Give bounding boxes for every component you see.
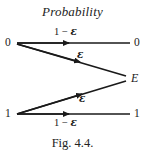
figure-container: Probability 0 1 0 1 E 1 − ε — [0, 0, 145, 155]
epsilon-symbol: ε — [70, 25, 76, 37]
epsilon-symbol: ε — [70, 116, 76, 128]
edge-label-one-to-erasure: ε — [79, 93, 85, 105]
node-input-zero: 0 — [5, 37, 11, 49]
epsilon-symbol: ε — [77, 48, 83, 60]
edge-label-one-to-one: 1 − ε — [54, 117, 77, 129]
edge-zero-to-erasure — [17, 44, 126, 76]
figure-caption: Fig. 4.4. — [0, 136, 145, 151]
edge-label-zero-to-zero: 1 − ε — [54, 26, 77, 38]
channel-diagram-graphic — [0, 0, 145, 155]
edge-label-one-to-one-prefix: 1 − — [54, 117, 70, 128]
node-output-zero: 0 — [134, 37, 140, 49]
epsilon-symbol: ε — [79, 92, 85, 104]
node-input-one: 1 — [5, 108, 11, 120]
edge-label-zero-to-erasure: ε — [77, 49, 83, 61]
edge-label-zero-to-zero-prefix: 1 − — [54, 26, 70, 37]
node-output-erasure: E — [131, 72, 138, 84]
node-output-one: 1 — [134, 108, 140, 120]
edge-one-to-erasure — [17, 81, 126, 114]
